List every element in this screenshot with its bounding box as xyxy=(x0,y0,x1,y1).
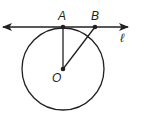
label-o: O xyxy=(52,71,61,85)
point-o xyxy=(61,67,66,72)
label-line-l: ℓ xyxy=(120,31,125,45)
point-a xyxy=(61,25,66,30)
diagram-canvas: A B O ℓ xyxy=(0,0,145,121)
label-b: B xyxy=(91,9,99,23)
geometry-diagram: A B O ℓ xyxy=(0,0,145,121)
point-b xyxy=(93,25,98,30)
label-a: A xyxy=(57,9,66,23)
segment-ob xyxy=(63,27,95,69)
